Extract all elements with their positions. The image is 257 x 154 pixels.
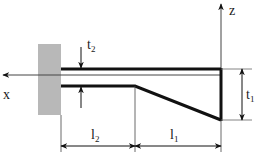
x-axis-label: x [3,87,10,102]
l2-dimension: l2 [61,127,135,146]
z-axis: z [221,3,235,69]
l1-dimension: l1 [135,127,221,146]
z-axis-label: z [229,3,235,18]
t1-label: t1 [246,87,254,104]
t1-dimension: t1 [221,69,254,120]
fixed-wall-support [38,44,61,115]
t2-dimension: t2 [81,37,95,108]
t2-label: t2 [87,37,95,54]
l2-label: l2 [91,127,99,144]
beam-diagram: x z t2 t1 l2 l1 [0,0,257,154]
beam-outline [61,68,221,121]
beam-bottom-edge [61,86,221,120]
l1-label: l1 [170,127,178,144]
x-axis: x [3,75,221,102]
